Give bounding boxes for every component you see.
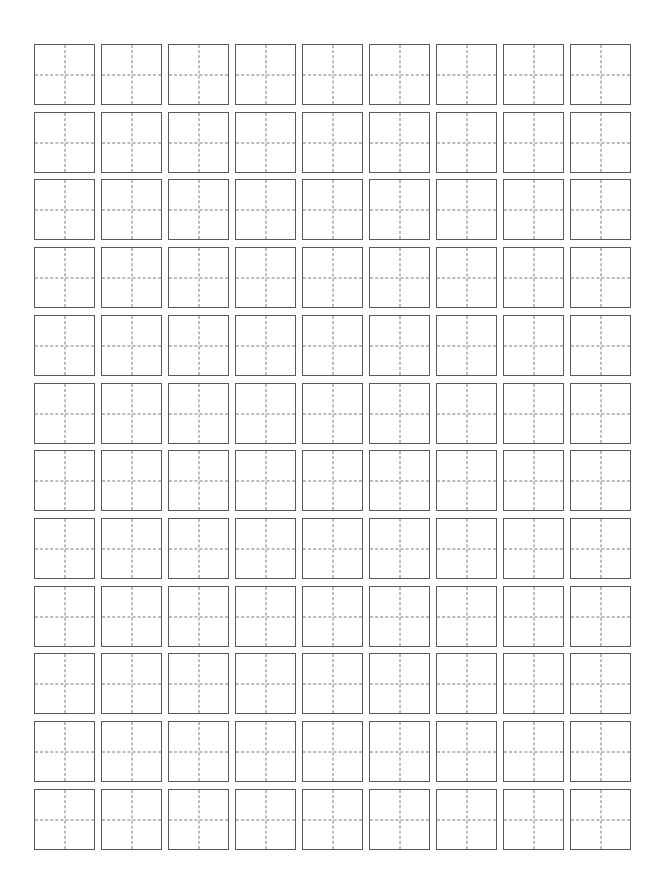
grid-cell <box>168 112 229 173</box>
grid-cell <box>369 44 430 105</box>
horizontal-guide-line <box>303 751 362 752</box>
horizontal-guide-line <box>370 277 429 278</box>
grid-cell <box>235 789 296 850</box>
horizontal-guide-line <box>35 548 94 549</box>
grid-cell <box>369 247 430 308</box>
horizontal-guide-line <box>236 142 295 143</box>
horizontal-guide-line <box>571 345 630 346</box>
grid-cell <box>436 112 497 173</box>
grid-cell <box>168 586 229 647</box>
grid-cell <box>235 518 296 579</box>
grid-cell <box>168 247 229 308</box>
grid-cell <box>570 586 631 647</box>
grid-cell <box>570 518 631 579</box>
horizontal-guide-line <box>370 142 429 143</box>
grid-cell <box>34 789 95 850</box>
grid-cell <box>168 179 229 240</box>
grid-cell <box>570 450 631 511</box>
grid-cell <box>302 315 363 376</box>
horizontal-guide-line <box>35 480 94 481</box>
grid-cell <box>503 789 564 850</box>
horizontal-guide-line <box>370 209 429 210</box>
grid-cell <box>235 247 296 308</box>
horizontal-guide-line <box>169 345 228 346</box>
horizontal-guide-line <box>102 413 161 414</box>
horizontal-guide-line <box>370 548 429 549</box>
horizontal-guide-line <box>236 345 295 346</box>
horizontal-guide-line <box>571 548 630 549</box>
grid-cell <box>168 383 229 444</box>
horizontal-guide-line <box>370 616 429 617</box>
horizontal-guide-line <box>303 683 362 684</box>
horizontal-guide-line <box>102 209 161 210</box>
grid-cell <box>503 721 564 782</box>
grid-cell <box>503 247 564 308</box>
horizontal-guide-line <box>571 142 630 143</box>
grid-cell <box>302 653 363 714</box>
grid-cell <box>570 721 631 782</box>
horizontal-guide-line <box>504 74 563 75</box>
horizontal-guide-line <box>303 548 362 549</box>
horizontal-guide-line <box>169 751 228 752</box>
horizontal-guide-line <box>303 616 362 617</box>
horizontal-guide-line <box>370 751 429 752</box>
horizontal-guide-line <box>236 751 295 752</box>
horizontal-guide-line <box>169 819 228 820</box>
horizontal-guide-line <box>303 277 362 278</box>
grid-cell <box>369 383 430 444</box>
horizontal-guide-line <box>504 616 563 617</box>
grid-cell <box>369 112 430 173</box>
horizontal-guide-line <box>35 616 94 617</box>
horizontal-guide-line <box>102 548 161 549</box>
grid-cell <box>235 383 296 444</box>
horizontal-guide-line <box>437 683 496 684</box>
grid-cell <box>302 789 363 850</box>
horizontal-guide-line <box>35 74 94 75</box>
grid-cell <box>503 44 564 105</box>
grid-cell <box>235 586 296 647</box>
grid-cell <box>34 44 95 105</box>
grid-cell <box>503 518 564 579</box>
horizontal-guide-line <box>303 413 362 414</box>
horizontal-guide-line <box>437 74 496 75</box>
grid-cell <box>503 450 564 511</box>
grid-cell <box>302 179 363 240</box>
grid-cell <box>570 383 631 444</box>
grid-cell <box>235 653 296 714</box>
grid-cell <box>369 586 430 647</box>
grid-cell <box>369 518 430 579</box>
horizontal-guide-line <box>437 209 496 210</box>
grid-cell <box>369 315 430 376</box>
grid-cell <box>168 721 229 782</box>
grid-cell <box>168 450 229 511</box>
horizontal-guide-line <box>236 277 295 278</box>
grid-cell <box>34 179 95 240</box>
grid-cell <box>369 179 430 240</box>
grid-cell <box>34 721 95 782</box>
grid-cell <box>436 44 497 105</box>
grid-cell <box>34 653 95 714</box>
horizontal-guide-line <box>35 209 94 210</box>
horizontal-guide-line <box>437 751 496 752</box>
horizontal-guide-line <box>102 74 161 75</box>
horizontal-guide-line <box>571 616 630 617</box>
grid-cell <box>101 450 162 511</box>
horizontal-guide-line <box>236 819 295 820</box>
grid-cell <box>503 586 564 647</box>
grid-cell <box>302 518 363 579</box>
horizontal-guide-line <box>35 819 94 820</box>
horizontal-guide-line <box>169 548 228 549</box>
horizontal-guide-line <box>437 142 496 143</box>
horizontal-guide-line <box>504 209 563 210</box>
grid-cell <box>235 44 296 105</box>
grid-cell <box>34 247 95 308</box>
grid-cell <box>503 179 564 240</box>
grid-cell <box>235 179 296 240</box>
horizontal-guide-line <box>35 413 94 414</box>
horizontal-guide-line <box>35 751 94 752</box>
grid-cell <box>101 586 162 647</box>
grid-cell <box>302 247 363 308</box>
horizontal-guide-line <box>169 413 228 414</box>
practice-grid <box>34 44 631 852</box>
grid-cell <box>168 315 229 376</box>
